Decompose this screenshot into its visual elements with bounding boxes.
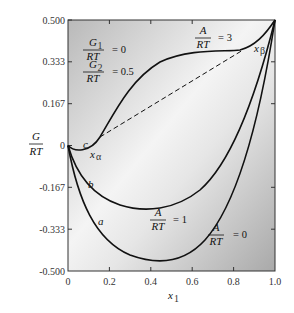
svg-text:1: 1 [174, 293, 179, 304]
svg-text:RT: RT [29, 145, 44, 157]
svg-text:0.500: 0.500 [43, 15, 66, 26]
svg-text:RT: RT [86, 72, 101, 84]
svg-text:a: a [98, 215, 104, 227]
x-axis-title: x 1 [167, 289, 179, 304]
svg-text:G: G [89, 58, 97, 70]
svg-text:= 3: = 3 [218, 32, 232, 43]
y-axis-title: G RT [29, 130, 44, 157]
y-tick-labels: 0.500 0.333 0.167 0 -0.167 -0.333 -0.500 [39, 15, 65, 277]
svg-text:0.167: 0.167 [43, 98, 66, 109]
svg-text:1.0: 1.0 [269, 276, 282, 287]
svg-text:= 0: = 0 [233, 229, 247, 240]
svg-text:x: x [89, 148, 95, 160]
svg-text:RT: RT [151, 220, 166, 232]
svg-text:0: 0 [66, 276, 71, 287]
svg-text:0.4: 0.4 [145, 276, 158, 287]
svg-text:RT: RT [209, 235, 224, 247]
svg-text:c: c [83, 138, 88, 150]
svg-text:x: x [167, 289, 173, 301]
svg-text:x: x [253, 42, 259, 54]
svg-text:G: G [89, 36, 97, 48]
svg-text:= 1: = 1 [173, 214, 187, 225]
svg-text:0.333: 0.333 [43, 56, 66, 67]
svg-text:= 0.5: = 0.5 [112, 66, 134, 77]
svg-text:= 0: = 0 [112, 44, 126, 55]
svg-text:0: 0 [60, 140, 65, 151]
svg-text:α: α [96, 151, 102, 162]
svg-text:A: A [154, 206, 162, 218]
svg-text:β: β [260, 45, 265, 56]
svg-text:b: b [88, 178, 94, 190]
svg-text:RT: RT [196, 38, 211, 50]
svg-text:0.6: 0.6 [186, 276, 199, 287]
svg-text:0.8: 0.8 [227, 276, 240, 287]
svg-text:0.2: 0.2 [103, 276, 116, 287]
svg-text:A: A [212, 221, 220, 233]
svg-text:A: A [199, 24, 207, 36]
svg-text:-0.333: -0.333 [39, 224, 65, 235]
chart: 0.500 0.333 0.167 0 -0.167 -0.333 -0.500… [0, 0, 294, 313]
svg-text:G: G [32, 130, 40, 142]
svg-text:-0.167: -0.167 [39, 182, 65, 193]
svg-text:-0.500: -0.500 [39, 266, 65, 277]
x-tick-labels: 0 0.2 0.4 0.6 0.8 1.0 [66, 276, 282, 287]
